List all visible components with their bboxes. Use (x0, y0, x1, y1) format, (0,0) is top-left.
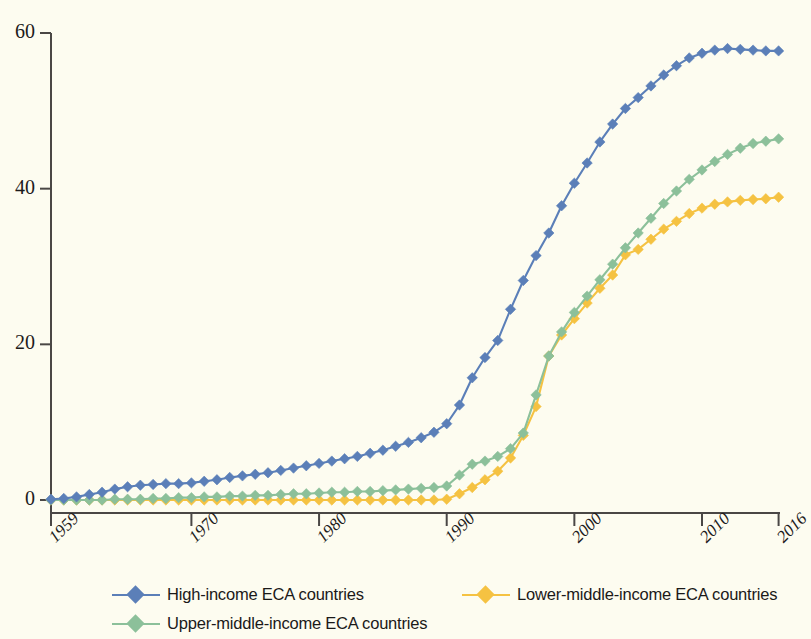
data-point-marker (110, 484, 120, 494)
series-line (51, 49, 779, 500)
data-point-marker (314, 458, 324, 468)
legend-item[interactable]: High-income ECA countries (112, 585, 364, 604)
series-lower-middle-income-eca-countries (46, 192, 784, 505)
data-point-marker (761, 136, 771, 146)
data-point-marker (148, 479, 158, 489)
data-point-marker (148, 493, 158, 503)
data-point-marker (365, 486, 375, 496)
data-point-marker (199, 476, 209, 486)
data-series-layer (46, 43, 784, 505)
legend-diamond-icon (126, 614, 144, 632)
data-point-marker (186, 478, 196, 488)
series-high-income-eca-countries (46, 43, 784, 504)
data-point-marker (403, 484, 413, 494)
data-point-marker (416, 433, 426, 443)
data-point-marker (288, 463, 298, 473)
y-axis-tick-label: 60 (0, 20, 35, 43)
data-point-marker (416, 483, 426, 493)
data-point-marker (467, 373, 477, 383)
data-point-marker (390, 441, 400, 451)
data-point-marker (710, 199, 720, 209)
legend-marker-icon (462, 588, 510, 602)
data-point-marker (122, 494, 132, 504)
legend-label: Lower-middle-income ECA countries (517, 585, 777, 604)
data-point-marker (352, 486, 362, 496)
y-axis-tick-label: 0 (0, 487, 35, 510)
data-point-marker (544, 228, 554, 238)
data-point-marker (773, 46, 783, 56)
data-point-marker (365, 448, 375, 458)
data-point-marker (288, 489, 298, 499)
data-point-marker (442, 494, 452, 504)
data-point-marker (46, 494, 56, 504)
data-point-marker (697, 203, 707, 213)
data-point-marker (135, 480, 145, 490)
data-point-marker (480, 456, 490, 466)
data-point-marker (556, 201, 566, 211)
data-point-marker (531, 250, 541, 260)
series-upper-middle-income-eca-countries (46, 134, 784, 506)
data-point-marker (173, 478, 183, 488)
data-point-marker (250, 469, 260, 479)
data-point-marker (735, 143, 745, 153)
data-point-marker (122, 482, 132, 492)
data-point-marker (748, 45, 758, 55)
legend-item[interactable]: Lower-middle-income ECA countries (462, 585, 777, 604)
legend-diamond-icon (126, 585, 144, 603)
data-point-marker (722, 149, 732, 159)
data-point-marker (403, 437, 413, 447)
data-point-marker (314, 488, 324, 498)
data-point-marker (761, 194, 771, 204)
legend-item[interactable]: Upper-middle-income ECA countries (112, 614, 427, 633)
data-point-marker (735, 195, 745, 205)
data-point-marker (735, 44, 745, 54)
data-point-marker (301, 489, 311, 499)
data-point-marker (518, 275, 528, 285)
data-point-marker (161, 478, 171, 488)
data-point-marker (237, 471, 247, 481)
data-point-marker (378, 445, 388, 455)
data-point-marker (135, 494, 145, 504)
legend-diamond-icon (476, 585, 494, 603)
data-point-marker (773, 134, 783, 144)
data-point-marker (748, 138, 758, 148)
data-point-marker (671, 216, 681, 226)
data-point-marker (327, 487, 337, 497)
data-point-marker (416, 495, 426, 505)
data-point-marker (454, 489, 464, 499)
data-point-marker (110, 494, 120, 504)
data-point-marker (569, 178, 579, 188)
data-point-marker (263, 468, 273, 478)
legend-marker-icon (112, 588, 160, 602)
data-point-marker (390, 485, 400, 495)
data-point-marker (467, 482, 477, 492)
legend-label: Upper-middle-income ECA countries (167, 614, 427, 633)
data-point-marker (327, 456, 337, 466)
data-point-marker (339, 487, 349, 497)
series-line (51, 139, 779, 500)
data-point-marker (505, 304, 515, 314)
data-point-marker (403, 495, 413, 505)
data-point-marker (212, 475, 222, 485)
data-point-marker (97, 487, 107, 497)
data-point-marker (225, 472, 235, 482)
data-point-marker (390, 495, 400, 505)
data-point-marker (722, 197, 732, 207)
data-point-marker (697, 48, 707, 58)
data-point-marker (339, 454, 349, 464)
legend-label: High-income ECA countries (167, 585, 364, 604)
data-point-marker (429, 482, 439, 492)
data-point-marker (773, 192, 783, 202)
data-point-marker (59, 493, 69, 503)
data-point-marker (161, 493, 171, 503)
axes (40, 33, 780, 526)
y-axis-tick-label: 40 (0, 176, 35, 199)
data-point-marker (352, 451, 362, 461)
legend-marker-icon (112, 617, 160, 631)
data-point-marker (761, 46, 771, 56)
data-point-marker (582, 158, 592, 168)
data-point-marker (378, 495, 388, 505)
data-point-marker (722, 43, 732, 53)
